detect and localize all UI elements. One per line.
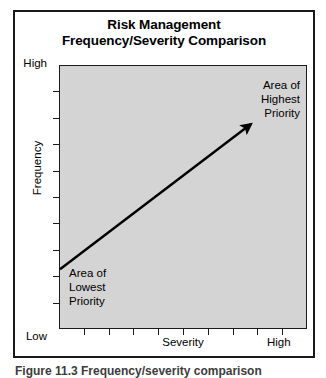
x-axis-tick xyxy=(208,329,209,335)
chart-title-line-2: Frequency/Severity Comparison xyxy=(15,33,313,49)
chart-title-line-1: Risk Management xyxy=(15,17,313,33)
annotation-highest-priority-line-2: Highest xyxy=(261,92,300,106)
chart-title: Risk Management Frequency/Severity Compa… xyxy=(15,17,313,49)
x-axis-high-label: High xyxy=(267,336,291,348)
annotation-lowest-priority-line-3: Priority xyxy=(69,294,106,308)
x-axis-tick xyxy=(282,329,283,335)
x-axis-tick xyxy=(133,329,134,335)
figure-caption: Figure 11.3 Frequency/severity compariso… xyxy=(15,364,262,378)
x-axis-tick xyxy=(183,329,184,335)
x-axis-tick xyxy=(257,329,258,335)
x-axis-tick xyxy=(84,329,85,335)
x-axis-tick xyxy=(109,329,110,335)
y-axis-high-label: High xyxy=(23,57,47,69)
x-axis-tick xyxy=(158,329,159,335)
annotation-lowest-priority-line-1: Area of xyxy=(69,266,106,280)
figure-frame: Risk Management Frequency/Severity Compa… xyxy=(13,10,315,358)
plot-area: Area of Highest Priority Area of Lowest … xyxy=(59,65,307,329)
annotation-highest-priority-line-1: Area of xyxy=(261,78,300,92)
annotation-lowest-priority: Area of Lowest Priority xyxy=(69,266,106,308)
y-axis-low-label: Low xyxy=(26,330,47,342)
x-axis-tick xyxy=(233,329,234,335)
annotation-highest-priority-line-3: Priority xyxy=(261,106,300,120)
y-axis-title: Frequency xyxy=(31,128,43,208)
annotation-lowest-priority-line-2: Lowest xyxy=(69,280,106,294)
annotation-highest-priority: Area of Highest Priority xyxy=(261,78,300,120)
